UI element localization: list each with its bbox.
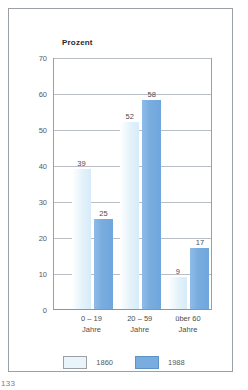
chart-legend: 1860 1988 [0,356,248,369]
legend-label-1988: 1988 [168,358,185,367]
x-axis-label-line: Jahre [127,325,152,336]
x-axis-label-0: 0 – 19Jahre [81,314,102,335]
legend-item-1988: 1988 [135,356,185,369]
y-axis-tick-70: 70 [39,54,47,63]
x-axis-label-line: über 60 [175,314,200,325]
x-axis-label-line: 0 – 19 [81,314,102,325]
chart-title: Prozent [62,38,93,47]
bar-value-label-1860-0: 39 [77,159,85,168]
bar-1860-1 [120,122,139,309]
y-axis-tick-0: 0 [43,306,47,315]
page-number: 133 [1,379,15,388]
x-axis-label-line: Jahre [81,325,102,336]
bar-value-label-1988-2: 17 [196,238,204,247]
bar-value-label-1860-1: 52 [126,112,134,121]
bar-1860-0 [72,169,91,309]
bar-1988-2 [190,248,209,309]
legend-label-1860: 1860 [96,358,113,367]
x-axis-label-1: 20 – 59Jahre [127,314,152,335]
plot-area: 39255258917 [53,58,212,310]
legend-swatch-1988 [135,356,159,369]
bar-group: 5258 [116,58,165,309]
bar-group: 3925 [68,58,117,309]
y-axis-tick-20: 20 [39,234,47,243]
bar-1988-0 [94,219,113,309]
y-axis-tick-30: 30 [39,198,47,207]
bar-group: 917 [164,58,213,309]
x-axis-label-line: 20 – 59 [127,314,152,325]
bar-1860-2 [168,277,187,309]
bars-layer: 39255258917 [54,58,211,309]
x-axis-label-line: Jahre [175,325,200,336]
y-axis-tick-10: 10 [39,270,47,279]
y-axis-tick-40: 40 [39,162,47,171]
legend-swatch-1860 [63,356,87,369]
y-axis-tick-50: 50 [39,126,47,135]
x-axis-label-2: über 60Jahre [175,314,200,335]
bar-1988-1 [142,100,161,309]
legend-item-1860: 1860 [63,356,113,369]
y-axis-tick-60: 60 [39,90,47,99]
gridline-0 [54,309,211,310]
bar-value-label-1860-2: 9 [176,267,180,276]
bar-value-label-1988-1: 58 [148,90,156,99]
bar-value-label-1988-0: 25 [99,209,107,218]
